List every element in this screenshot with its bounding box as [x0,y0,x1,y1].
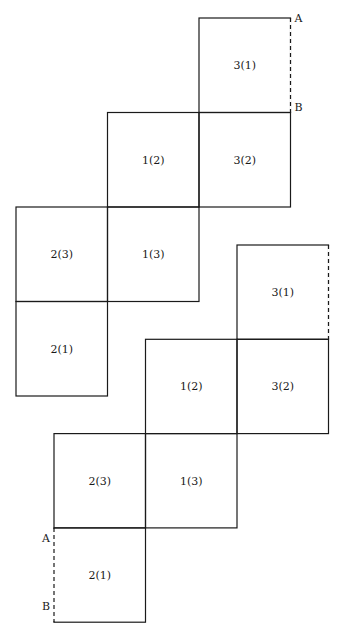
cube-nets-figure: 3(1)1(2)3(2)2(3)1(3)2(1)AB3(1)1(2)3(2)2(… [0,0,348,636]
face-label: 2(3) [88,475,111,488]
face-label: 3(1) [271,286,294,299]
face-label: 1(2) [180,380,203,393]
face-label: 3(2) [233,154,256,167]
face-label: 1(3) [142,248,165,261]
face-label: 3(2) [271,380,294,393]
face-label: 1(3) [180,475,203,488]
face-label: 2(3) [50,248,73,261]
face-label: 2(1) [88,569,111,582]
face-label: 1(2) [142,154,165,167]
point-label-b: B [295,101,303,114]
face-label: 3(1) [233,59,256,72]
point-label-a: A [294,12,304,25]
point-label-b: B [42,600,50,613]
point-label-a: A [41,532,51,545]
face-label: 2(1) [50,343,73,356]
net-1: 3(1)1(2)3(2)2(3)1(3)2(1)AB [16,12,304,396]
